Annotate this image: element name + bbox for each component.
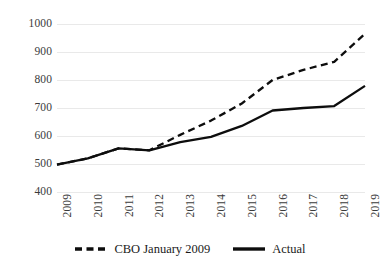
x-tick-label: 2011	[124, 194, 136, 217]
legend-swatch-solid-icon	[232, 245, 266, 253]
x-tick-label: 2019	[370, 194, 380, 217]
y-tick-label: 600	[6, 130, 52, 142]
x-tick-label: 2015	[247, 194, 259, 217]
x-tick-label: 2013	[185, 194, 197, 217]
legend-label-actual: Actual	[272, 243, 305, 256]
x-tick-label: 2018	[339, 194, 351, 217]
x-tick-label: 2010	[93, 194, 105, 217]
x-tick-label: 2009	[62, 194, 74, 217]
series-line-cbo-january-2009	[57, 34, 365, 165]
series-lines	[57, 24, 365, 192]
y-tick-label: 500	[6, 158, 52, 170]
legend-swatch-dashed-icon	[74, 245, 108, 253]
line-chart: 1000900800700600500400 20092010201120122…	[0, 0, 380, 262]
y-tick-label: 800	[6, 74, 52, 86]
y-axis: 1000900800700600500400	[0, 24, 52, 192]
x-axis: 2009201020112012201320142015201620172018…	[57, 194, 365, 236]
gridline	[57, 192, 365, 193]
x-tick-label: 2014	[216, 194, 228, 217]
chart-legend: CBO January 2009 Actual	[0, 239, 380, 259]
y-tick-label: 400	[6, 186, 52, 198]
x-tick-label: 2017	[308, 194, 320, 217]
y-tick-label: 700	[6, 102, 52, 114]
x-tick-label: 2016	[278, 194, 290, 217]
y-tick-label: 900	[6, 46, 52, 58]
plot-area	[57, 24, 365, 192]
legend-label-cbo-january-2009: CBO January 2009	[114, 243, 210, 256]
series-line-actual	[57, 86, 365, 165]
legend-entry-cbo-january-2009: CBO January 2009	[74, 243, 210, 256]
x-tick-label: 2012	[154, 194, 166, 217]
y-tick-label: 1000	[6, 18, 52, 30]
legend-entry-actual: Actual	[232, 243, 305, 256]
